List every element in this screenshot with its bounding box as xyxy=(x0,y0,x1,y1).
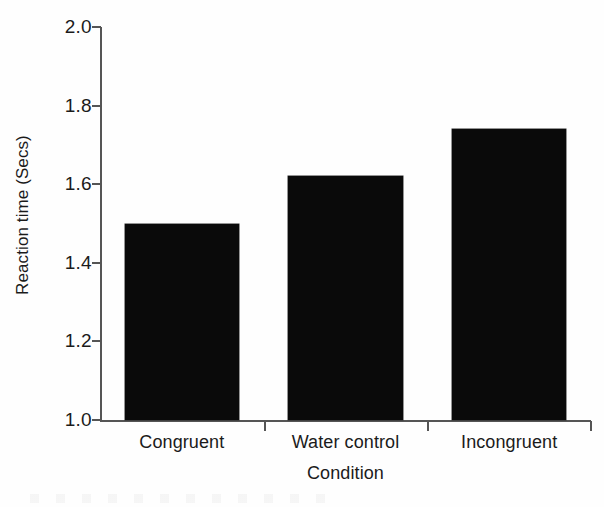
y-axis-tick-mark xyxy=(92,105,101,107)
bar xyxy=(288,176,403,420)
y-axis-tick-mark xyxy=(92,26,101,28)
x-axis-tick-label: Congruent xyxy=(100,432,264,453)
x-axis-title: Condition xyxy=(100,463,591,484)
x-axis-tick-mark xyxy=(427,421,429,431)
x-axis-tick-label: Incongruent xyxy=(427,432,591,453)
bar-chart-figure: Reaction time (Secs) 2.01.81.61.41.21.0 … xyxy=(0,0,604,507)
y-axis-tick-mark xyxy=(92,340,101,342)
scan-artifact xyxy=(30,494,330,503)
x-axis-tick-label: Water control xyxy=(264,432,428,453)
plot-area: CongruentWater controlIncongruent xyxy=(0,0,604,507)
y-axis-tick-mark xyxy=(92,419,101,421)
bar xyxy=(452,129,567,420)
x-axis-tick-mark xyxy=(590,421,592,431)
bar xyxy=(125,224,240,421)
y-axis-tick-mark xyxy=(92,262,101,264)
y-axis-tick-mark xyxy=(92,183,101,185)
x-axis-tick-mark xyxy=(264,421,266,431)
